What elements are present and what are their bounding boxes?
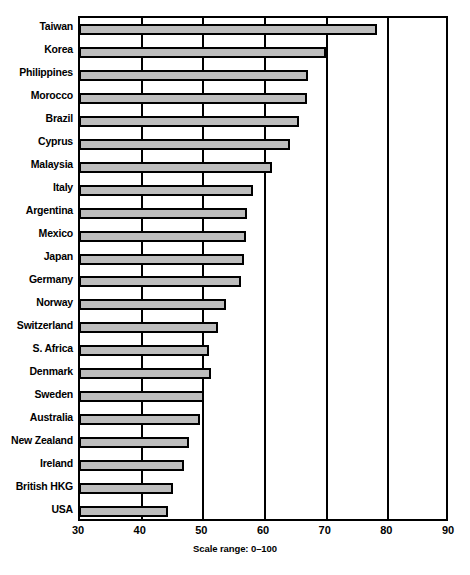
bar-germany (79, 276, 241, 287)
category-label-usa: USA (0, 504, 73, 515)
bar-sweden (79, 391, 204, 402)
bar-row (80, 431, 450, 454)
bar-new-zealand (79, 437, 189, 448)
bar-row (80, 64, 450, 87)
bar-row (80, 271, 450, 294)
category-label-philippines: Philippines (0, 67, 73, 78)
x-tick-40: 40 (134, 524, 146, 537)
bar-malaysia (79, 162, 272, 173)
bar-row (80, 41, 450, 64)
bar-row (80, 454, 450, 477)
category-label-sweden: Sweden (0, 389, 73, 400)
bar-row (80, 477, 450, 500)
category-label-italy: Italy (0, 182, 73, 193)
bar-row (80, 133, 450, 156)
bar-row (80, 87, 450, 110)
category-label-taiwan: Taiwan (0, 21, 73, 32)
bar-chart-figure: TaiwanKoreaPhilippinesMoroccoBrazilCypru… (0, 0, 470, 575)
category-label-new-zealand: New Zealand (0, 435, 73, 446)
bar-british-hkg (79, 483, 173, 494)
category-label-british-hkg: British HKG (0, 481, 73, 492)
bar-row (80, 316, 450, 339)
category-label-germany: Germany (0, 274, 73, 285)
scale-range-caption: Scale range: 0–100 (0, 543, 470, 554)
bar-japan (79, 254, 244, 265)
bar-cyprus (79, 139, 290, 150)
category-label-australia: Australia (0, 412, 73, 423)
category-label-japan: Japan (0, 251, 73, 262)
bar-switzerland (79, 322, 218, 333)
bar-row (80, 110, 450, 133)
bar-row (80, 385, 450, 408)
bar-row (80, 362, 450, 385)
category-label-argentina: Argentina (0, 205, 73, 216)
x-axis-tick-labels: 30405060708090 (78, 524, 448, 540)
bar-korea (79, 47, 326, 58)
x-tick-70: 70 (319, 524, 331, 537)
bar-philippines (79, 70, 308, 81)
x-tick-30: 30 (72, 524, 84, 537)
bar-mexico (79, 231, 246, 242)
bar-australia (79, 414, 200, 425)
category-label-ireland: Ireland (0, 458, 73, 469)
bar-row (80, 500, 450, 523)
bar-row (80, 179, 450, 202)
category-label-malaysia: Malaysia (0, 159, 73, 170)
x-tick-60: 60 (257, 524, 269, 537)
bar-morocco (79, 93, 307, 104)
plot-area (78, 16, 448, 521)
bar-row (80, 18, 450, 41)
bar-brazil (79, 116, 299, 127)
category-label-denmark: Denmark (0, 366, 73, 377)
bar-row (80, 156, 450, 179)
bar-row (80, 225, 450, 248)
x-tick-80: 80 (380, 524, 392, 537)
category-label-morocco: Morocco (0, 90, 73, 101)
bar-row (80, 339, 450, 362)
x-tick-90: 90 (442, 524, 454, 537)
bar-row (80, 408, 450, 431)
bar-row (80, 293, 450, 316)
bar-argentina (79, 208, 247, 219)
bar-norway (79, 299, 226, 310)
bar-s-africa (79, 345, 209, 356)
bar-denmark (79, 368, 211, 379)
category-label-s-africa: S. Africa (0, 343, 73, 354)
bars-group (80, 18, 446, 519)
bar-row (80, 202, 450, 225)
category-label-brazil: Brazil (0, 113, 73, 124)
bar-taiwan (79, 24, 377, 35)
category-label-cyprus: Cyprus (0, 136, 73, 147)
x-tick-50: 50 (195, 524, 207, 537)
category-label-switzerland: Switzerland (0, 320, 73, 331)
category-label-norway: Norway (0, 297, 73, 308)
bar-ireland (79, 460, 184, 471)
bar-italy (79, 185, 253, 196)
bar-row (80, 248, 450, 271)
category-label-mexico: Mexico (0, 228, 73, 239)
y-axis-category-labels: TaiwanKoreaPhilippinesMoroccoBrazilCypru… (0, 16, 73, 521)
category-label-korea: Korea (0, 44, 73, 55)
bar-usa (79, 506, 168, 517)
